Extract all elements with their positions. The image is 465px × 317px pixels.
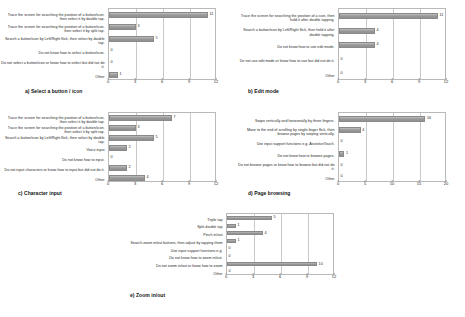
bar-value-label: 0 <box>229 255 231 259</box>
panel-c-category-label: Search a button/icon by Left/Right flick… <box>0 135 106 145</box>
x-tick-label: 12 <box>332 275 336 279</box>
bar-value-label: 4 <box>377 43 379 47</box>
bar-value-label: 0 <box>341 164 343 168</box>
bar-value-label: 0 <box>341 72 343 76</box>
panel-b-x-ticks: 036912 <box>338 80 446 89</box>
bar-row: 2 <box>109 143 215 153</box>
panel-c-x-axis: 036912 <box>108 182 216 191</box>
bar <box>109 36 154 42</box>
panel-d-category-label: Do not know how to browse pages. <box>238 150 336 162</box>
bar-row: 7 <box>109 113 215 123</box>
bar-row: 11 <box>339 9 445 23</box>
panel-b-bars: 114400 <box>339 9 445 79</box>
x-tick-label: 3 <box>134 80 136 84</box>
bar-value-label: 5 <box>156 37 158 41</box>
category-label-text: Do not input characters or know how to i… <box>5 168 105 172</box>
bar-value-label: 0 <box>111 61 113 65</box>
panel-d-category-label: Swipe vertically and horizontally by thr… <box>238 115 336 127</box>
panel-b-category-label: Trace the screen for searching the posit… <box>238 11 336 25</box>
bar <box>227 216 272 220</box>
bar-value-label: 0 <box>229 270 231 274</box>
category-label-text: Use input support functions e.g. <box>171 249 223 253</box>
panel-d-category-label: Do not browse pages or know how to brows… <box>238 162 336 174</box>
panel-b-plot-area: 114400 <box>338 8 446 80</box>
bar-row: 0 <box>109 57 215 69</box>
bar-row: 0 <box>339 160 445 172</box>
panel-e-category-label: Split double tap <box>118 224 224 232</box>
bar-row: 4 <box>339 23 445 37</box>
panel-e-category-label: Pinch in/out <box>118 232 224 240</box>
panel-a-x-axis: 036912 <box>108 80 216 89</box>
bar <box>109 115 172 120</box>
bar-row: 0 <box>339 52 445 66</box>
category-label-text: Trace the screen for searching the posit… <box>0 126 105 135</box>
bar-row: 5 <box>109 33 215 45</box>
panel-b-category-labels: Trace the screen for searching the posit… <box>238 8 338 80</box>
bar-row: 5 <box>227 214 333 222</box>
category-label-text: Trace the screen for searching the posit… <box>238 14 335 23</box>
category-label-text: Other <box>325 74 334 78</box>
bar-value-label: 0 <box>341 140 343 144</box>
panel-d-plot-area: 1640100 <box>338 112 446 182</box>
category-label-text: Triple tap <box>207 218 222 222</box>
bar-value-label: 1 <box>238 239 240 243</box>
panel-c-body: Trace the screen for searching the posit… <box>0 112 216 191</box>
panel-b-category-label: Do not use edit mode or know how to use … <box>238 54 336 68</box>
category-label-text: Do not know how to zoom in/out. <box>169 256 222 260</box>
panel-c-category-label: Do not input characters or know how to i… <box>0 165 106 175</box>
bar-row: 0 <box>339 136 445 148</box>
x-tick-label: 12 <box>444 80 448 84</box>
panel-e-plot-area: 514100100 <box>226 213 334 275</box>
bar-value-label: 11 <box>440 14 444 18</box>
panel-c-category-label: Do not know how to input. <box>0 155 106 165</box>
figure-sheet: Trace the screen for searching the posit… <box>0 0 465 317</box>
panel-a-caption: a) Select a button / icon <box>25 88 82 94</box>
bar-value-label: 0 <box>111 49 113 53</box>
panel-e-plot-column: 514100100 036912 <box>226 213 334 284</box>
panel-b-category-label: Do not know how to use edit mode. <box>238 40 336 54</box>
panel-d-category-label: Use input support functions e.g. Assisti… <box>238 138 336 150</box>
bar-value-label: 4 <box>377 29 379 33</box>
panel-a-x-ticks: 036912 <box>108 80 216 89</box>
x-tick-label: 3 <box>364 80 366 84</box>
x-tick-label: 6 <box>161 182 163 186</box>
bar <box>109 145 127 150</box>
panel-a-category-labels: Trace the screen for searching the posit… <box>0 8 108 80</box>
bar-row: 2 <box>109 163 215 173</box>
bar <box>227 239 236 243</box>
category-label-text: Swipe vertically and horizontally by thr… <box>255 119 335 123</box>
category-label-text: Do not know how to select a button/icon. <box>39 51 105 55</box>
panel-c-plot-area: 7352024 <box>108 112 216 182</box>
category-label-text: Trace the screen for searching the posit… <box>0 116 105 125</box>
panel-a-category-label: Do not select a button/icon or know how … <box>0 59 106 71</box>
panel-b-body: Trace the screen for searching the posit… <box>238 8 446 89</box>
panel-c-category-labels: Trace the screen for searching the posit… <box>0 112 108 182</box>
bar-value-label: 4 <box>362 129 364 133</box>
category-label-text: Voice input <box>87 148 105 152</box>
panel-e-body: Triple tapSplit double tapPinch in/outSe… <box>118 213 334 284</box>
x-tick-label: 20 <box>444 182 448 186</box>
x-tick-label: 3 <box>252 275 254 279</box>
bar-value-label: 1 <box>120 73 122 77</box>
bar-row: 0 <box>227 245 333 253</box>
panel-a-bars: 1135001 <box>109 9 215 79</box>
bar <box>109 135 154 140</box>
bar-row: 0 <box>109 153 215 163</box>
panel-d-category-label: Move to the end of scrolling by single-f… <box>238 127 336 139</box>
panel-b-caption: b) Edit mode <box>248 88 279 94</box>
x-tick-label: 6 <box>279 275 281 279</box>
bar-value-label: 4 <box>147 176 149 180</box>
panel-d-bars: 1640100 <box>339 113 445 181</box>
bar-row: 4 <box>339 125 445 137</box>
panel-e-bars: 514100100 <box>227 214 333 274</box>
category-label-text: Do not use edit mode or know how to use … <box>240 59 335 63</box>
category-label-text: Do not zoom in/out or know how to zoom <box>156 264 223 268</box>
bar-value-label: 1 <box>238 224 240 228</box>
category-label-text: Move to the end of scrolling by single-f… <box>238 128 335 137</box>
bar-value-label: 7 <box>174 116 176 120</box>
bar-row: 1 <box>227 237 333 245</box>
bar <box>109 165 127 170</box>
bar <box>109 24 136 30</box>
bar <box>339 13 438 19</box>
category-label-text: Trace the screen for searching the posit… <box>0 25 105 34</box>
